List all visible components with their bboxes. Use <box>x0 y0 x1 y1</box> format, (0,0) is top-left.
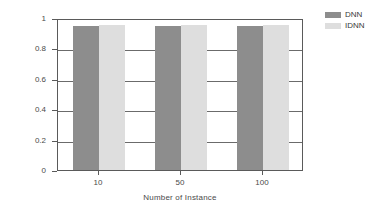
y-tick-label: 0 <box>24 167 46 175</box>
x-tick-label: 100 <box>247 178 277 187</box>
legend-swatch-icon <box>325 12 341 18</box>
bar-dnn-100 <box>237 26 263 170</box>
plot-area <box>57 19 303 171</box>
legend-item-idnn: IDNN <box>325 21 383 30</box>
y-tick-label: 1 <box>24 15 46 23</box>
x-tick-mark <box>98 171 99 175</box>
bar-dnn-10 <box>73 26 99 170</box>
y-tick-label: 0.4 <box>24 106 46 114</box>
legend-label: DNN <box>345 10 362 19</box>
bar-dnn-50 <box>155 26 181 170</box>
legend-item-dnn: DNN <box>325 10 383 19</box>
x-tick-label: 50 <box>165 178 195 187</box>
y-tick-label: 0.2 <box>24 137 46 145</box>
y-tick-label: 0.8 <box>24 45 46 53</box>
x-tick-mark <box>180 171 181 175</box>
bar-chart-figure: Precision 00.20.40.60.81 1050100 Number … <box>0 0 388 216</box>
legend: DNNIDNN <box>325 10 383 32</box>
bar-idnn-50 <box>181 25 207 170</box>
legend-swatch-icon <box>325 23 341 29</box>
x-tick-label: 10 <box>83 178 113 187</box>
x-axis-title: Number of Instance <box>57 193 303 202</box>
y-tick-label: 0.6 <box>24 76 46 84</box>
legend-label: IDNN <box>345 21 365 30</box>
x-tick-mark <box>262 171 263 175</box>
bar-idnn-100 <box>263 25 289 170</box>
bar-idnn-10 <box>99 25 125 170</box>
y-tick-mark <box>52 171 57 172</box>
bar-series-group <box>58 20 302 170</box>
